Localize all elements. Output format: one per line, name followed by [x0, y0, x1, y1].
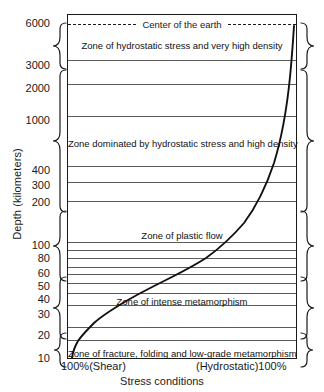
- y-tick-40: 40: [8, 294, 50, 305]
- right-brace-group: [299, 10, 317, 362]
- y-tick-300: 300: [8, 180, 50, 191]
- x-axis-left-label: 100%(Shear): [61, 360, 126, 372]
- y-tick-10: 10: [8, 353, 50, 364]
- y-tick-20: 20: [8, 330, 50, 341]
- y-axis-tick-labels: 6000 3000 2000 1000 400 300 200 100 80 6…: [0, 0, 50, 392]
- x-axis-right-label: (Hydrostatic)100%: [196, 360, 286, 372]
- y-tick-200: 200: [8, 197, 50, 208]
- y-tick-1000: 1000: [8, 115, 50, 126]
- left-brace-group: [50, 10, 68, 362]
- y-tick-400: 400: [8, 165, 50, 176]
- y-tick-100: 100: [8, 240, 50, 251]
- y-tick-50: 50: [8, 281, 50, 292]
- depth-stress-chart: Depth (kilometers) 6000 3000 2000 1000 4…: [0, 0, 324, 392]
- stress-transition-curve: [68, 15, 298, 360]
- y-tick-6000: 6000: [8, 18, 50, 29]
- y-tick-80: 80: [8, 253, 50, 264]
- y-tick-60: 60: [8, 268, 50, 279]
- x-axis-title: Stress conditions: [0, 375, 324, 387]
- y-tick-3000: 3000: [8, 60, 50, 71]
- plot-area: Center of the earth Zone of hydrostatic …: [67, 14, 297, 359]
- y-tick-30: 30: [8, 309, 50, 320]
- y-tick-2000: 2000: [8, 83, 50, 94]
